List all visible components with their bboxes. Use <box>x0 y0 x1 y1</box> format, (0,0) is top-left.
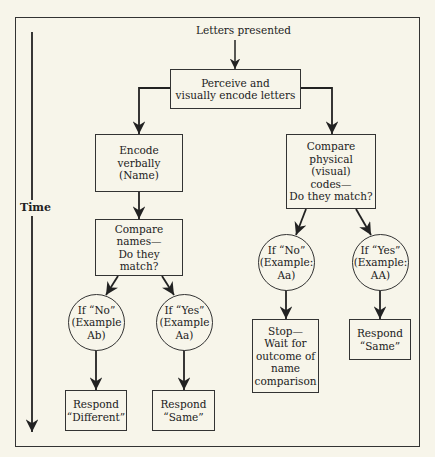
encode-verbally-box: Encode verbally (Name) <box>95 134 183 192</box>
compare-names-box: Compare names— Do they match? <box>95 219 183 276</box>
respond-same-names-box: Respond “Same” <box>152 390 215 431</box>
names-yes-circle: If “Yes” (Example Aa) <box>156 294 213 351</box>
time-axis-label: Time <box>20 200 51 215</box>
start-label: Letters presented <box>196 24 291 36</box>
respond-same-physical-box: Respond “Same” <box>349 319 411 360</box>
physical-no-circle: If “No” (Example: Aa) <box>258 234 315 291</box>
stop-wait-box: Stop— Wait for outcome of name compariso… <box>252 319 319 393</box>
names-no-circle: If “No” (Example Ab) <box>68 294 125 351</box>
respond-different-box: Respond “Different” <box>65 390 127 431</box>
perceive-encode-box: Perceive and visually encode letters <box>170 69 301 109</box>
physical-yes-circle: If “Yes” (Example: AA) <box>352 234 409 291</box>
compare-physical-box: Compare physical (visual) codes— Do they… <box>286 134 376 209</box>
